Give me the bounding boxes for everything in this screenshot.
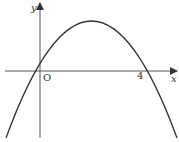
parabola-diagram: y x O 4	[0, 0, 179, 142]
parabola-curve	[6, 21, 177, 138]
diagram-canvas: y x O 4	[0, 0, 179, 142]
y-axis-label: y	[30, 2, 37, 13]
root-4-label: 4	[137, 70, 143, 81]
x-axis-label: x	[171, 73, 177, 84]
origin-label: O	[43, 72, 51, 83]
